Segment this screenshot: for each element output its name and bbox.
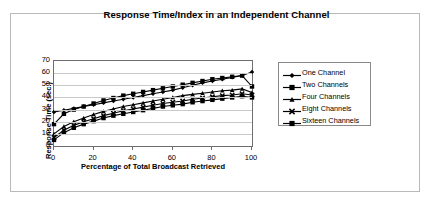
gridline bbox=[54, 73, 252, 74]
x-tick-mark bbox=[132, 147, 133, 150]
x-tick-label: 60 bbox=[160, 153, 184, 162]
chart-title: Response Time/Index in an Independent Ch… bbox=[0, 9, 433, 20]
legend-label: One Channel bbox=[302, 67, 345, 78]
legend-label: Four Channels bbox=[302, 91, 350, 102]
x-tick-label: 100 bbox=[239, 153, 263, 162]
legend-item: Sixteen Channels bbox=[282, 114, 368, 126]
x-tick-label: 80 bbox=[199, 153, 223, 162]
legend-item: Eight Channels bbox=[282, 102, 368, 114]
gridline bbox=[54, 134, 252, 135]
square-marker-icon bbox=[282, 79, 302, 90]
x-axis-tick-labels: 020406080100 bbox=[33, 150, 273, 160]
legend: One ChannelTwo ChannelsFour ChannelsEigh… bbox=[278, 62, 371, 126]
gridline bbox=[54, 110, 252, 111]
legend-label: Eight Channels bbox=[302, 103, 352, 114]
x-axis-title: Percentage of Total Broadcast Retrieved bbox=[33, 162, 273, 171]
x-tick-mark bbox=[53, 147, 54, 150]
legend-label: Sixteen Channels bbox=[302, 115, 359, 126]
gridline bbox=[54, 85, 252, 86]
y-tick-label: 0 bbox=[30, 141, 50, 149]
x-tick-mark bbox=[211, 147, 212, 150]
y-tick-label: 40 bbox=[30, 92, 50, 100]
x-tick-label: 0 bbox=[41, 153, 65, 162]
plot-area bbox=[53, 60, 253, 147]
legend-item: Four Channels bbox=[282, 90, 368, 102]
x-tick-label: 20 bbox=[81, 153, 105, 162]
diamond-marker-icon bbox=[282, 67, 302, 78]
y-axis-tick-labels: 010203040506070 bbox=[30, 55, 50, 152]
legend-label: Two Channels bbox=[302, 79, 348, 90]
y-tick-label: 20 bbox=[30, 117, 50, 125]
gridline bbox=[54, 97, 252, 98]
x-tick-mark bbox=[172, 147, 173, 150]
y-tick-label: 10 bbox=[30, 129, 50, 137]
y-tick-label: 50 bbox=[30, 80, 50, 88]
legend-item: Two Channels bbox=[282, 78, 368, 90]
x-cross-marker-icon bbox=[282, 103, 302, 114]
y-tick-label: 60 bbox=[30, 68, 50, 76]
square-marker-icon bbox=[282, 115, 302, 126]
chart-screenshot: Response Time/Index in an Independent Ch… bbox=[0, 0, 433, 207]
x-tick-mark bbox=[251, 147, 252, 150]
x-tick-label: 40 bbox=[120, 153, 144, 162]
triangle-marker-icon bbox=[282, 91, 302, 102]
y-tick-label: 30 bbox=[30, 105, 50, 113]
x-tick-mark bbox=[93, 147, 94, 150]
legend-item: One Channel bbox=[282, 66, 368, 78]
gridline bbox=[54, 122, 252, 123]
y-tick-label: 70 bbox=[30, 56, 50, 64]
